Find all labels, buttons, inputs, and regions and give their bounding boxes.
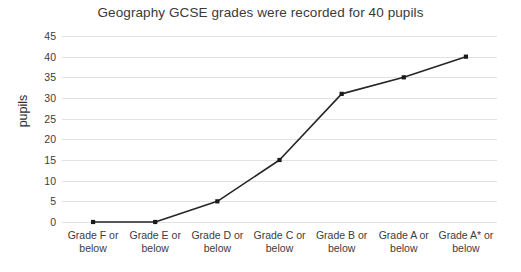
x-axis-tick-label: Grade A* orbelow (423, 229, 509, 255)
y-axis-tick-labels: 051015202530354045 (12, 36, 56, 222)
cumulative-frequency-chart: Geography GCSE grades were recorded for … (0, 0, 521, 272)
y-axis-tick-label: 30 (16, 92, 56, 104)
series-polyline (93, 57, 466, 222)
y-axis-tick-label: 5 (16, 195, 56, 207)
y-axis-tick-label: 40 (16, 51, 56, 63)
data-point-marker (402, 75, 406, 79)
y-axis-tick-label: 45 (16, 30, 56, 42)
y-axis-tick-label: 20 (16, 133, 56, 145)
plot-area (62, 36, 497, 222)
data-point-markers (91, 55, 468, 225)
data-series-line (62, 36, 497, 222)
data-point-marker (153, 220, 157, 224)
y-axis-tick-label: 10 (16, 175, 56, 187)
x-axis-tick-labels: Grade F orbelowGrade E orbelowGrade D or… (62, 229, 497, 269)
y-axis-tick-label: 15 (16, 154, 56, 166)
data-point-marker (215, 199, 219, 203)
chart-title: Geography GCSE grades were recorded for … (0, 5, 521, 20)
data-point-marker (340, 92, 344, 96)
data-point-marker (464, 55, 468, 59)
y-axis-tick-label: 35 (16, 71, 56, 83)
y-axis-tick-label: 0 (16, 216, 56, 228)
data-point-marker (91, 220, 95, 224)
data-point-marker (277, 158, 281, 162)
y-axis-tick-label: 25 (16, 113, 56, 125)
